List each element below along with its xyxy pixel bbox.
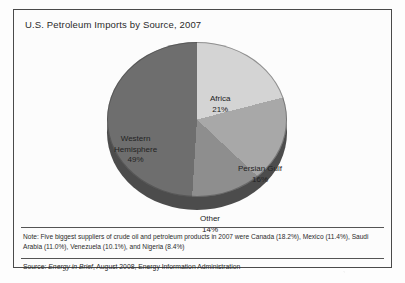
pie-label-africa-name: Africa — [210, 94, 230, 103]
pie-label-western-hemisphere: Western Hemisphere 49% — [114, 134, 157, 166]
pie-label-persian-gulf-value: 16% — [238, 175, 282, 186]
pie-label-africa-value: 21% — [210, 105, 230, 116]
pie-label-western-hemisphere-value: 49% — [114, 155, 157, 166]
pie-label-other-name: Other — [200, 214, 220, 223]
figure-source: Source: Energy in Brief, August 2008, En… — [23, 262, 385, 272]
pie-label-persian-gulf-name: Persian Gulf — [238, 164, 282, 173]
figure-container: U.S. Petroleum Imports by Source, 2007 A… — [13, 9, 392, 268]
pie-label-persian-gulf: Persian Gulf 16% — [238, 164, 282, 185]
pie-chart: Africa 21% Persian Gulf 16% Other 14% We… — [14, 36, 391, 222]
note-divider — [21, 227, 384, 228]
source-suffix: , August 2008, Energy Information Admini… — [93, 263, 240, 270]
pie-label-western-hemisphere-name-line2: Hemisphere — [114, 145, 157, 156]
source-publication: Energy in Brief — [48, 263, 93, 270]
pie-graphic — [107, 42, 287, 214]
pie-label-western-hemisphere-name-line1: Western — [121, 134, 151, 143]
pie-label-africa: Africa 21% — [210, 94, 230, 115]
figure-note: Note: Five biggest suppliers of crude oi… — [23, 232, 385, 251]
source-prefix: Source: — [23, 263, 48, 270]
figure-title: U.S. Petroleum Imports by Source, 2007 — [25, 19, 201, 30]
source-divider — [21, 258, 384, 259]
